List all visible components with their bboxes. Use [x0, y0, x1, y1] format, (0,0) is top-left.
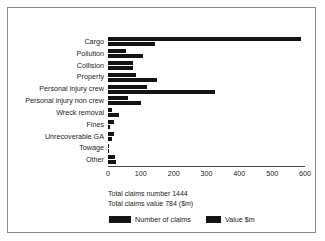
- bar-group: [108, 95, 305, 107]
- category-label: Collision: [77, 60, 104, 72]
- bar-group: [108, 83, 305, 95]
- x-axis-tick-labels: 0100200300400500600: [108, 169, 305, 181]
- bar-group: [108, 142, 305, 154]
- category-label: Wreck removal: [56, 107, 104, 119]
- legend-item: Number of claims: [109, 215, 191, 224]
- category-label: Cargo: [84, 36, 104, 48]
- bar-group: [108, 154, 305, 166]
- bar-value: [108, 149, 109, 153]
- category-label: Personal injury non crew: [25, 95, 104, 107]
- chart-frame: CargoPollutionCollisionPropertyPersonal …: [7, 7, 316, 233]
- bar-value: [108, 101, 141, 105]
- bar-claims: [108, 73, 136, 77]
- chart-legend: Number of claimsValue $m: [109, 215, 255, 224]
- bar-value: [108, 42, 155, 46]
- x-tick-label: 600: [299, 169, 311, 178]
- x-axis-line: [108, 166, 305, 167]
- x-tick-label: 300: [201, 169, 213, 178]
- category-axis-labels: CargoPollutionCollisionPropertyPersonal …: [8, 36, 104, 166]
- x-tick-label: 100: [135, 169, 147, 178]
- category-label: Towage: [79, 142, 104, 154]
- bar-value: [108, 113, 119, 117]
- bar-group: [108, 48, 305, 60]
- chart-figure: CargoPollutionCollisionPropertyPersonal …: [0, 0, 325, 241]
- x-tick-label: 400: [233, 169, 245, 178]
- bar-claims: [108, 120, 114, 124]
- bar-value: [108, 54, 143, 58]
- plot-area: [108, 36, 305, 166]
- bar-value: [108, 66, 133, 70]
- bar-value: [108, 78, 157, 82]
- category-label: Unrecoverable GA: [45, 131, 104, 143]
- bar-group: [108, 119, 305, 131]
- legend-label: Number of claims: [135, 215, 191, 224]
- category-label: Other: [86, 154, 104, 166]
- bar-claims: [108, 144, 109, 148]
- bar-value: [108, 125, 110, 129]
- bar-claims: [108, 132, 114, 136]
- total-claims-value-text: Total claims value 784 ($m): [108, 199, 193, 209]
- bar-value: [108, 90, 215, 94]
- bar-claims: [108, 155, 115, 159]
- legend-swatch: [206, 216, 221, 223]
- legend-label: Value $m: [225, 215, 255, 224]
- category-label: Fines: [86, 119, 104, 131]
- x-tick-label: 0: [106, 169, 110, 178]
- bar-group: [108, 36, 305, 48]
- bar-group: [108, 60, 305, 72]
- x-tick-label: 200: [168, 169, 180, 178]
- category-label: Property: [77, 71, 104, 83]
- bar-claims: [108, 85, 147, 89]
- bar-group: [108, 107, 305, 119]
- total-claims-number-text: Total claims number 1444: [108, 189, 193, 199]
- x-tick-label: 500: [266, 169, 278, 178]
- bar-value: [108, 160, 116, 164]
- bar-claims: [108, 108, 112, 112]
- legend-item: Value $m: [206, 215, 255, 224]
- bar-claims: [108, 96, 128, 100]
- legend-swatch: [109, 216, 131, 223]
- category-label: Pollution: [76, 48, 104, 60]
- bar-group: [108, 71, 305, 83]
- bar-claims: [108, 61, 133, 65]
- bar-claims: [108, 49, 126, 53]
- totals-annotation: Total claims number 1444 Total claims va…: [108, 189, 193, 209]
- bar-value: [108, 137, 112, 141]
- bar-claims: [108, 37, 301, 41]
- category-label: Personal injury crew: [39, 83, 104, 95]
- bar-group: [108, 131, 305, 143]
